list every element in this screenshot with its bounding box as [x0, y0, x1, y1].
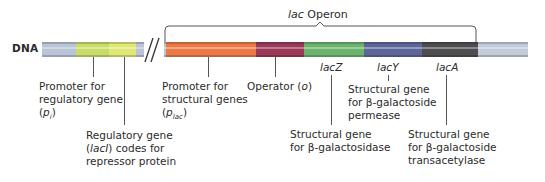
tag-gene: Y [392, 61, 398, 73]
dna-segment-lacZ [304, 42, 364, 57]
label-line: for β-galactosidase [290, 141, 390, 154]
connector-lacZ [331, 75, 332, 125]
segment-edge [42, 55, 76, 57]
connector-lacA [446, 75, 447, 125]
connector-lacY [388, 75, 389, 81]
dna-break-icon [139, 36, 169, 64]
label-line: (pi) [39, 106, 123, 124]
dna-segment-dna-left [42, 42, 76, 57]
connector-regulatory-gene [124, 57, 125, 125]
segment-edge [42, 42, 76, 44]
tag-lacA: lacA [436, 61, 458, 74]
segment-edge [478, 55, 528, 57]
symbol-p: p [43, 106, 50, 118]
dna-label: DNA [12, 42, 38, 54]
dna-segment-lacA [422, 42, 478, 57]
tag-lacZ: lacZ [320, 61, 342, 74]
label-line: Promoter for [162, 80, 248, 93]
label-line: permease [348, 109, 437, 122]
label-line: (plac) [162, 106, 248, 124]
segment-edge [304, 55, 364, 57]
segment-edge [422, 55, 478, 57]
label-line: Regulatory gene [86, 129, 176, 142]
tag-lacY: lacY [377, 61, 399, 74]
segment-edge [364, 42, 422, 44]
operon-title-rest: Operon [304, 8, 348, 21]
dna-segment-promoter-regulatory [76, 42, 109, 57]
segment-edge [364, 55, 422, 57]
label-line: regulatory gene [39, 93, 123, 106]
dna-segment-promoter-structural [166, 42, 256, 57]
tag-gene: A [451, 61, 458, 73]
segment-edge [166, 42, 256, 44]
label-lacZ: Structural gene for β-galactosidase [290, 128, 390, 154]
operon-title-italic: lac [288, 8, 304, 21]
text: Operator ( [247, 80, 301, 92]
segment-edge [478, 42, 528, 44]
label-line: Structural gene [348, 83, 437, 96]
tag-lac: lac [320, 61, 335, 73]
label-line: structural genes [162, 93, 248, 106]
label-promoter-structural: Promoter for structural genes (plac) [162, 80, 248, 124]
segment-edge [109, 42, 136, 44]
segment-edge [76, 42, 109, 44]
connector-promoter-structural [208, 57, 209, 77]
dna-segment-dna-right [478, 42, 528, 57]
label-line: for β-galactoside [408, 141, 497, 154]
label-promoter-regulatory: Promoter for regulatory gene (pi) [39, 80, 123, 124]
dna-segment-operator [256, 42, 304, 57]
dna-segment-lacY [364, 42, 422, 57]
label-regulatory-gene: Regulatory gene (lacI) codes for repress… [86, 129, 176, 168]
lac-operon-bracket [0, 0, 545, 45]
tag-lac: lac [436, 61, 451, 73]
segment-edge [256, 42, 304, 44]
label-line: (lacI) codes for [86, 142, 176, 155]
tag-gene: Z [335, 61, 342, 73]
tag-lac: lac [377, 61, 392, 73]
gene-lacI: lacI [90, 142, 108, 154]
label-operator: Operator (o) [247, 80, 312, 93]
label-line: Structural gene [408, 128, 497, 141]
connector-promoter-regulatory [93, 57, 94, 77]
label-line: repressor protein [86, 155, 176, 168]
text: ) codes for [108, 142, 164, 154]
label-line: Structural gene [290, 128, 390, 141]
segment-edge [422, 42, 478, 44]
label-line: for β-galactoside [348, 96, 437, 109]
paren: ) [183, 106, 187, 118]
label-lacY: Structural gene for β-galactoside permea… [348, 83, 437, 122]
label-line: transacetylase [408, 154, 497, 167]
segment-edge [166, 55, 256, 57]
segment-edge [304, 42, 364, 44]
dna-segment-regulatory-gene [109, 42, 136, 57]
connector-operator [275, 57, 276, 77]
label-line: Promoter for [39, 80, 123, 93]
text: ) [308, 80, 312, 92]
paren: ) [52, 106, 56, 118]
symbol-p: p [166, 106, 173, 118]
segment-edge [256, 55, 304, 57]
subscript: lac [173, 113, 183, 121]
segment-edge [109, 55, 136, 57]
operon-title: lac Operon [288, 8, 348, 21]
label-lacA: Structural gene for β-galactoside transa… [408, 128, 497, 167]
